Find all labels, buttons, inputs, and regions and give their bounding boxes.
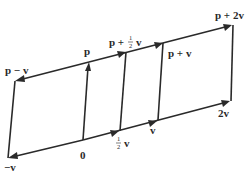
line-2v-to-p-plus-2v — [231, 25, 233, 101]
label-p-plus-v: p + v — [168, 47, 192, 59]
label-origin: 0 — [80, 149, 86, 161]
label-p-plus-half-v-pre: p + — [109, 36, 124, 48]
arrowhead-p-plus-half-v — [117, 51, 126, 58]
label-v: v — [150, 124, 156, 136]
arrow-p-to-p-minus-v — [19, 62, 89, 80]
label-half-v-den: 2 — [117, 143, 120, 150]
label-p-plus-2v: p + 2v — [215, 9, 244, 21]
label-neg-v: −v — [4, 161, 16, 173]
label-p: p — [84, 45, 90, 57]
label-2v: 2v — [218, 107, 230, 119]
arrowhead-p-plus-2v — [223, 24, 232, 31]
arrowhead-p-minus-v — [15, 75, 25, 82]
label-p-plus-half-v-den: 2 — [129, 42, 132, 49]
label-p-plus-half-v-var: v — [136, 36, 142, 48]
arrowhead-p-plus-v — [154, 42, 163, 49]
arrowhead-2v — [221, 100, 230, 107]
label-half-v-var: v — [124, 137, 130, 149]
line-half-v-to-p-plus-half-v — [120, 52, 126, 131]
arrow-0-to-neg-v — [12, 140, 83, 157]
label-half-v-num: 1 — [117, 135, 120, 142]
vector-diagram: 0 −v 1 2 v v 2v p p − v p + 1 2 v p + v … — [0, 0, 246, 173]
arrowhead-neg-v — [8, 152, 18, 159]
line-v-to-p-plus-v — [158, 43, 163, 120]
line-neg-v-to-p-minus-v — [8, 81, 15, 158]
label-p-plus-half-v-num: 1 — [129, 34, 132, 41]
label-p-minus-v: p − v — [5, 64, 29, 76]
arrow-0-to-p — [83, 67, 88, 140]
